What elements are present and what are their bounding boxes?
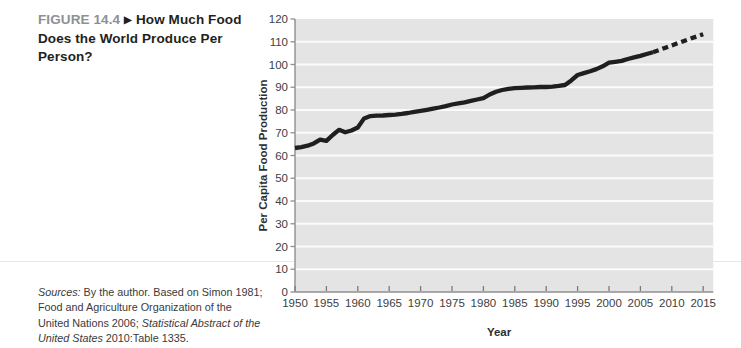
- y-tick-label-70: 70: [275, 127, 288, 139]
- y-tick-label-20: 20: [275, 241, 288, 253]
- x-tick-label-1975: 1975: [439, 297, 465, 309]
- y-tick-label-80: 80: [275, 104, 288, 116]
- x-tick-label-2015: 2015: [690, 297, 716, 309]
- y-axis-title: Per Capita Food Production: [257, 79, 269, 231]
- y-tick-label-30: 30: [275, 218, 288, 230]
- x-tick-label-2005: 2005: [628, 297, 654, 309]
- y-tick-label-60: 60: [275, 150, 288, 162]
- figure-arrow-icon: ▶: [124, 14, 132, 25]
- x-tick-label-1980: 1980: [471, 297, 497, 309]
- x-tick-label-1965: 1965: [376, 297, 402, 309]
- x-tick-label-1955: 1955: [314, 297, 340, 309]
- y-tick-label-40: 40: [275, 195, 288, 207]
- x-tick-label-1970: 1970: [408, 297, 434, 309]
- x-tick-label-2010: 2010: [659, 297, 685, 309]
- y-tick-label-10: 10: [275, 263, 288, 275]
- figure-label: FIGURE 14.4: [38, 12, 120, 27]
- x-tick-label-2000: 2000: [596, 297, 622, 309]
- y-tick-label-90: 90: [275, 81, 288, 93]
- y-tick-label-120: 120: [269, 13, 288, 25]
- x-axis-title: Year: [487, 326, 512, 338]
- y-tick-label-110: 110: [270, 36, 288, 48]
- y-tick-label-50: 50: [275, 172, 288, 184]
- x-tick-label-1950: 1950: [282, 297, 308, 309]
- x-tick-label-1985: 1985: [502, 297, 528, 309]
- y-tick-label-100: 100: [269, 59, 288, 71]
- x-tick-label-1990: 1990: [533, 297, 559, 309]
- x-tick-label-1960: 1960: [345, 297, 371, 309]
- line-chart: 0102030405060708090100110120195019551960…: [255, 0, 741, 348]
- figure-title: FIGURE 14.4 ▶ How Much Food Does the Wor…: [38, 11, 252, 67]
- page: FIGURE 14.4 ▶ How Much Food Does the Wor…: [0, 0, 741, 348]
- x-tick-label-1995: 1995: [565, 297, 591, 309]
- sources-label: Sources:: [38, 286, 81, 298]
- sources-note: Sources: By the author. Based on Simon 1…: [38, 285, 266, 346]
- sources-text-2: 2010:Table 1335.: [103, 332, 189, 344]
